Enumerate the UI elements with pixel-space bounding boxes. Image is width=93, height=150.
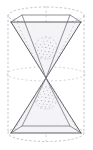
upper-front-face-wash [11, 22, 81, 78]
figure-container [0, 0, 93, 150]
lower-front-face-wash [11, 78, 81, 133]
bicone-in-cylinder-figure [0, 0, 93, 150]
